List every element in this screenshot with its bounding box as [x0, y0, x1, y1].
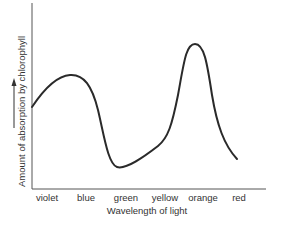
x-tick-label-green: green [114, 192, 138, 203]
x-tick-label-yellow: yellow [152, 192, 179, 203]
x-tick-label-orange: orange [188, 192, 218, 203]
absorption-chart: Amount of absorption by chlorophyll viol… [0, 0, 282, 230]
x-tick-label-blue: blue [77, 192, 95, 203]
absorption-curve [32, 44, 237, 167]
y-axis-label: Amount of absorption by chlorophyll [16, 36, 27, 187]
x-axis-label: Wavelength of light [107, 205, 188, 216]
x-tick-label-violet: violet [36, 192, 59, 203]
x-tick-label-red: red [232, 192, 246, 203]
